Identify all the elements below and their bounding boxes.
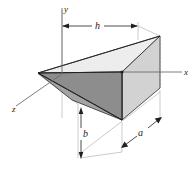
a-dimension-label: a [138, 127, 143, 138]
bottom-connector [80, 152, 122, 158]
dimension-a: a [121, 117, 162, 148]
y-axis-label: y [63, 4, 68, 14]
x-axis-label: x [183, 67, 188, 77]
z-axis-line [16, 74, 62, 106]
h-arrow-left [62, 24, 69, 29]
wedge-diagram-svg: y x z h b a [0, 0, 196, 169]
origin-marker [121, 71, 124, 74]
b-arrow-top [79, 107, 84, 114]
b-arrow-bottom [79, 152, 84, 159]
figure-container: y x z h b a [0, 0, 196, 169]
a-line-upper [148, 120, 158, 128]
b-dimension-label: b [83, 128, 88, 139]
h-dimension-label: h [95, 20, 100, 31]
h-arrow-right [131, 24, 138, 29]
top-right-extension [138, 26, 160, 36]
dimension-h: h [62, 20, 138, 31]
a-arrow-upper [155, 117, 162, 124]
a-line-lower [125, 136, 137, 145]
z-axis-label: z [11, 104, 16, 114]
